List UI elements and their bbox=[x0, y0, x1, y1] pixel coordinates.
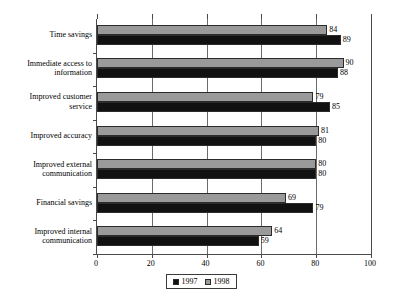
bar-value-1997: 85 bbox=[332, 102, 340, 112]
x-tick-label: 60 bbox=[245, 259, 275, 269]
bar-value-1998: 84 bbox=[329, 25, 337, 35]
bar-1997 bbox=[97, 136, 316, 146]
bar-value-1998: 81 bbox=[321, 126, 329, 136]
bar-value-1997: 80 bbox=[318, 136, 326, 146]
legend-label: 1998 bbox=[214, 277, 230, 286]
bar-1997 bbox=[97, 203, 313, 213]
category-label-line: service bbox=[2, 102, 92, 112]
category-axis-tick bbox=[93, 120, 97, 121]
gridline bbox=[316, 19, 317, 254]
legend-entry[interactable]: 1997 bbox=[173, 277, 198, 286]
category-axis-tick bbox=[93, 53, 97, 54]
bar-1998 bbox=[97, 58, 344, 68]
category-label: Financial savings bbox=[2, 198, 92, 208]
x-axis-tick bbox=[207, 14, 208, 19]
category-label: Improved customerservice bbox=[2, 92, 92, 111]
x-tick-label: 100 bbox=[355, 259, 385, 269]
category-label: Improved externalcommunication bbox=[2, 160, 92, 179]
category-axis-labels: Time savingsImmediate access toinformati… bbox=[0, 19, 92, 254]
category-label-line: Improved internal bbox=[2, 227, 92, 237]
bar-1997 bbox=[97, 236, 259, 246]
bar-1997 bbox=[97, 102, 330, 112]
x-axis-tick bbox=[261, 14, 262, 19]
category-label-line: Time savings bbox=[2, 30, 92, 40]
bar-value-1998: 90 bbox=[346, 58, 354, 68]
category-label-line: Financial savings bbox=[2, 198, 92, 208]
x-tick-label: 40 bbox=[191, 259, 221, 269]
category-label: Immediate access toinformation bbox=[2, 59, 92, 78]
legend-box: 19971998 bbox=[166, 274, 237, 289]
category-label-line: information bbox=[2, 68, 92, 78]
bar-1998 bbox=[97, 126, 319, 136]
category-label: Time savings bbox=[2, 30, 92, 40]
bar-value-1998: 64 bbox=[274, 226, 282, 236]
x-axis-tick bbox=[97, 14, 98, 19]
bar-1997 bbox=[97, 68, 338, 78]
x-tick-label: 0 bbox=[81, 259, 111, 269]
x-axis-tick bbox=[371, 254, 372, 258]
category-label-line: communication bbox=[2, 169, 92, 179]
plot-area: 8489908879858180808069796459 bbox=[96, 19, 372, 254]
category-label-line: Improved accuracy bbox=[2, 131, 92, 141]
category-axis-tick bbox=[93, 153, 97, 154]
category-label-line: communication bbox=[2, 236, 92, 246]
bar-chart: Time savingsImmediate access toinformati… bbox=[0, 0, 402, 303]
legend-entry[interactable]: 1998 bbox=[205, 277, 230, 286]
bar-value-1997: 88 bbox=[340, 68, 348, 78]
category-label-line: Improved customer bbox=[2, 92, 92, 102]
bar-1998 bbox=[97, 226, 272, 236]
bar-1998 bbox=[97, 159, 316, 169]
x-axis-tick bbox=[316, 14, 317, 19]
bar-value-1997: 59 bbox=[261, 236, 269, 246]
category-label-line: Improved external bbox=[2, 160, 92, 170]
bar-value-1997: 79 bbox=[315, 203, 323, 213]
category-label: Improved accuracy bbox=[2, 131, 92, 141]
bar-value-1998: 80 bbox=[318, 159, 326, 169]
x-axis-tick bbox=[371, 14, 372, 19]
bar-value-1997: 89 bbox=[343, 35, 351, 45]
legend: 19971998 bbox=[0, 274, 402, 289]
category-axis-tick bbox=[93, 187, 97, 188]
bar-1998 bbox=[97, 193, 286, 203]
legend-label: 1997 bbox=[182, 277, 198, 286]
bar-value-1998: 79 bbox=[315, 92, 323, 102]
bar-1998 bbox=[97, 92, 313, 102]
category-axis-tick bbox=[93, 86, 97, 87]
bar-1998 bbox=[97, 25, 327, 35]
bar-1997 bbox=[97, 169, 316, 179]
category-label-line: Immediate access to bbox=[2, 59, 92, 69]
gray-square-swatch bbox=[205, 279, 211, 285]
bar-value-1997: 80 bbox=[318, 169, 326, 179]
bar-1997 bbox=[97, 35, 341, 45]
x-tick-label: 80 bbox=[300, 259, 330, 269]
x-tick-label: 20 bbox=[136, 259, 166, 269]
black-square-swatch bbox=[173, 279, 179, 285]
x-axis-line bbox=[96, 254, 371, 255]
category-label: Improved internalcommunication bbox=[2, 227, 92, 246]
bar-value-1998: 69 bbox=[288, 193, 296, 203]
x-axis-tick bbox=[152, 14, 153, 19]
category-axis-tick bbox=[93, 220, 97, 221]
